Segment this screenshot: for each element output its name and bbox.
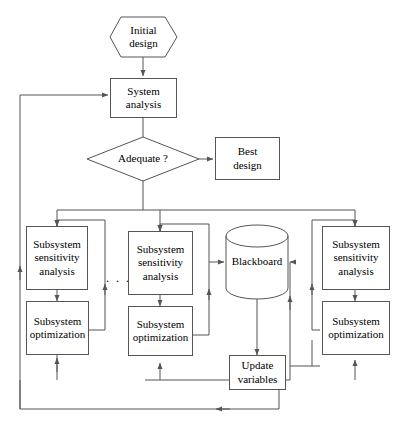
subsystem-middle-sensitivity-analysis-node[interactable]: Subsystem sensitivity analysis bbox=[128, 231, 193, 295]
subsystem-right-sensitivity-line2: sensitivity bbox=[331, 251, 380, 264]
subsystem-left-sensitivity-line2: sensitivity bbox=[32, 251, 81, 264]
connector-layer bbox=[0, 0, 410, 427]
subsystem-right-optimization-line2: optimization bbox=[326, 328, 386, 341]
subsystem-left-sensitivity-analysis-node[interactable]: Subsystem sensitivity analysis bbox=[26, 226, 88, 290]
adequate-decision-node[interactable]: Adequate ? bbox=[104, 150, 182, 168]
flowchart-diagram: Initial design System analysis Adequate … bbox=[0, 0, 410, 427]
subsystem-middle-sensitivity-line3: analysis bbox=[141, 270, 180, 283]
subsystem-middle-sensitivity-line1: Subsystem bbox=[135, 243, 187, 256]
subsystem-middle-sensitivity-line2: sensitivity bbox=[136, 256, 185, 269]
subsystem-left-optimization-line2: optimization bbox=[28, 328, 88, 341]
update-variables-label-line1: Update bbox=[240, 359, 276, 372]
blackboard-node[interactable]: Blackboard bbox=[226, 252, 288, 272]
best-design-label-line1: Best bbox=[236, 145, 260, 158]
initial-design-node[interactable]: Initial design bbox=[110, 17, 177, 57]
subsystem-middle-optimization-line2: optimization bbox=[131, 331, 191, 344]
subsystem-middle-optimization-line1: Subsystem bbox=[135, 318, 187, 331]
subsystem-right-sensitivity-line3: analysis bbox=[336, 265, 375, 278]
subsystem-right-sensitivity-analysis-node[interactable]: Subsystem sensitivity analysis bbox=[322, 226, 390, 290]
system-analysis-label-line2: analysis bbox=[124, 98, 163, 111]
subsystem-left-optimization-line1: Subsystem bbox=[32, 315, 84, 328]
blackboard-label: Blackboard bbox=[232, 255, 283, 268]
edge-right-opt-bottom bbox=[312, 340, 320, 366]
subsystem-left-sensitivity-line1: Subsystem bbox=[31, 238, 83, 251]
adequate-label: Adequate ? bbox=[118, 152, 168, 165]
subsystem-left-sensitivity-line3: analysis bbox=[37, 265, 76, 278]
initial-design-label-line1: Initial bbox=[130, 24, 156, 37]
update-variables-label-line2: variables bbox=[236, 373, 280, 386]
best-design-label-line2: design bbox=[231, 159, 264, 172]
subsystem-left-optimization-node[interactable]: Subsystem optimization bbox=[26, 301, 89, 355]
system-analysis-label-line1: System bbox=[125, 85, 161, 98]
blackboard-top-cap bbox=[226, 225, 288, 247]
subsystem-right-sensitivity-line1: Subsystem bbox=[330, 238, 382, 251]
subsystem-right-optimization-line1: Subsystem bbox=[330, 315, 382, 328]
best-design-node[interactable]: Best design bbox=[215, 137, 280, 180]
initial-design-label-line2: design bbox=[129, 37, 158, 50]
update-variables-node[interactable]: Update variables bbox=[229, 355, 286, 390]
subsystem-right-optimization-node[interactable]: Subsystem optimization bbox=[322, 301, 390, 355]
system-analysis-node[interactable]: System analysis bbox=[110, 78, 177, 118]
subsystem-middle-optimization-node[interactable]: Subsystem optimization bbox=[128, 306, 193, 356]
